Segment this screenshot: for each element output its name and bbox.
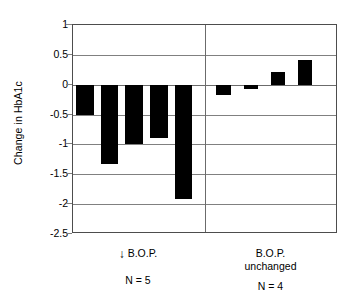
bar (150, 85, 168, 139)
group-caption-bop-unchanged: B.O.P. unchanged N = 4 (204, 247, 337, 293)
bar (76, 85, 94, 115)
group-caption-bop-decreased: ↓B.O.P. N = 5 (72, 247, 204, 287)
group-label-bop-decreased: ↓B.O.P. (72, 247, 204, 261)
group-n-bop-decreased: N = 5 (72, 274, 204, 287)
bar (101, 85, 119, 164)
y-axis-tick-mark (66, 233, 72, 234)
bar (298, 60, 312, 85)
y-axis-tick-marks (0, 24, 72, 233)
bar (175, 85, 193, 200)
group-label-line1: B.O.P. (204, 247, 337, 260)
down-arrow-icon: ↓ (119, 247, 125, 261)
bar (244, 85, 258, 90)
group-label-line2: unchanged (204, 260, 337, 273)
bar (271, 72, 285, 85)
bar (216, 85, 230, 96)
bar (125, 85, 143, 145)
plot-area (72, 24, 337, 233)
group-n-bop-unchanged: N = 4 (204, 280, 337, 293)
group-label-line1: B.O.P. (128, 247, 158, 259)
group-divider-line (205, 25, 206, 232)
group-label-bop-unchanged: B.O.P. unchanged (204, 247, 337, 273)
chart-figure: Change in HbA1c 10.50-0.5-1-1.5-2-2.5 ↓B… (0, 0, 355, 300)
